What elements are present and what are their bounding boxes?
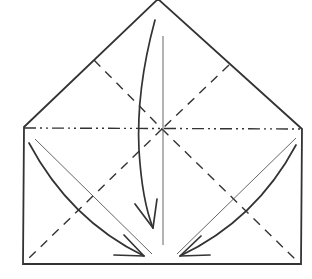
valley-fold-upper-right xyxy=(162,65,229,129)
fold-left-corner-in-arrow-icon xyxy=(29,143,144,256)
origami-diagram xyxy=(0,0,312,279)
fold-top-down-arrow-icon xyxy=(135,20,157,228)
valley-fold-lower-right xyxy=(162,129,298,262)
right-reference-line xyxy=(177,138,296,254)
fold-right-corner-in-arrow-icon xyxy=(180,145,296,256)
valley-fold-upper-left xyxy=(94,60,162,129)
